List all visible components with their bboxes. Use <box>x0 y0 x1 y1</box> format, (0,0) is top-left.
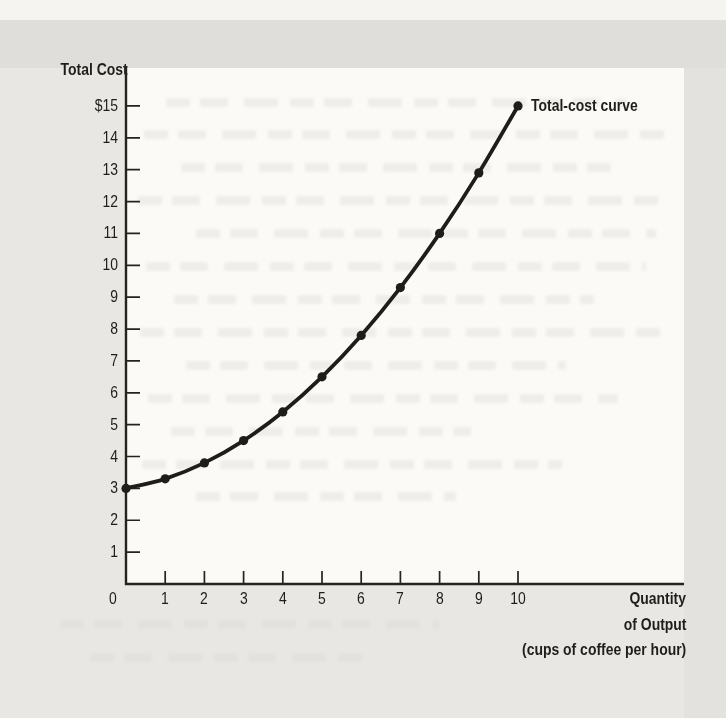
bleed-text-line <box>60 620 440 629</box>
plot-area <box>126 68 684 584</box>
y-tick-label-3: 3 <box>61 479 118 497</box>
x-tick-label-0: 0 <box>95 590 131 608</box>
x-axis-title-line-2: of Output <box>623 616 686 634</box>
y-tick-label-15: $15 <box>61 97 118 115</box>
y-tick-label-10: 10 <box>61 256 118 274</box>
bleed-text-line <box>90 653 370 662</box>
x-tick-label-3: 3 <box>226 590 262 608</box>
y-axis-title: Total Cost <box>61 61 118 79</box>
curve-label: Total-cost curve <box>531 97 638 115</box>
scanned-textbook-page: Total Cost 1234567891011121314$15 012345… <box>0 0 726 718</box>
y-tick-label-12: 12 <box>61 193 118 211</box>
x-axis-title-line-1: Quantity <box>629 590 686 608</box>
y-tick-label-4: 4 <box>61 448 118 466</box>
x-tick-label-7: 7 <box>382 590 418 608</box>
x-axis-title-line-3: (cups of coffee per hour) <box>522 641 686 659</box>
x-tick-label-10: 10 <box>500 590 536 608</box>
y-tick-label-2: 2 <box>61 511 118 529</box>
y-tick-label-5: 5 <box>61 416 118 434</box>
page-top-margin <box>0 0 726 20</box>
y-tick-label-14: 14 <box>61 129 118 147</box>
y-tick-label-13: 13 <box>61 161 118 179</box>
x-tick-label-1: 1 <box>147 590 183 608</box>
y-tick-label-9: 9 <box>61 288 118 306</box>
y-tick-label-7: 7 <box>61 352 118 370</box>
y-tick-label-6: 6 <box>61 384 118 402</box>
y-tick-label-8: 8 <box>61 320 118 338</box>
x-tick-label-2: 2 <box>186 590 222 608</box>
x-tick-label-9: 9 <box>461 590 497 608</box>
x-tick-label-6: 6 <box>343 590 379 608</box>
x-tick-label-4: 4 <box>265 590 301 608</box>
x-tick-label-5: 5 <box>304 590 340 608</box>
y-tick-label-1: 1 <box>61 543 118 561</box>
page-right-margin <box>684 68 726 718</box>
y-tick-label-11: 11 <box>61 224 118 242</box>
x-tick-label-8: 8 <box>422 590 458 608</box>
